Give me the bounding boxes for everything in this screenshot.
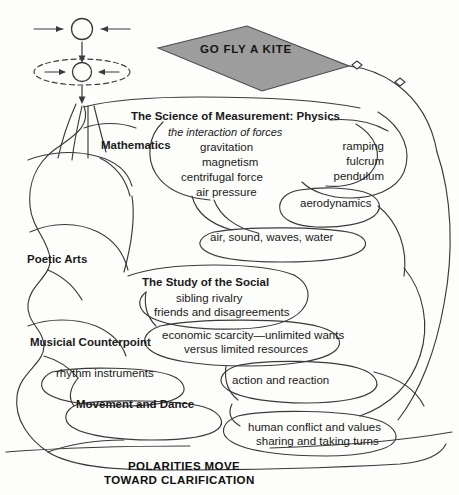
diagram-lines [0, 0, 459, 495]
music-label: Musicial Counterpoint [30, 336, 151, 350]
action-label: action and reaction [232, 374, 329, 388]
physics-descend-arc [192, 196, 232, 230]
rhythm-label: rhythm instruments [56, 367, 154, 381]
connector-lower-left [48, 440, 124, 452]
bottom-caption-line-one: POLARITIES MOVE [128, 459, 240, 473]
machines-item-fulcrum: fulcrum [308, 155, 384, 169]
kite-shape [158, 26, 349, 91]
bottom-caption-line-two: TOWARD CLARIFICATION [104, 473, 255, 487]
top-arrow-left [34, 26, 63, 32]
physics-item-gravitation: gravitation [200, 141, 253, 155]
right-sweep-one [404, 268, 425, 356]
mathematics-label: Mathematics [101, 139, 171, 153]
down-arrow-one [79, 42, 86, 63]
machines-item-pendulum: pendulum [300, 170, 384, 184]
economics-line-one: economic scarcity—unlimited wants [162, 329, 344, 343]
movement-label: Movement and Dance [76, 398, 194, 412]
diagram-canvas: GO FLY A KITE The Science of Measurement… [0, 0, 459, 495]
mathematics-lobe-upper [84, 124, 136, 129]
action-right-tail [374, 372, 424, 406]
poetic-arts-tail [48, 270, 82, 300]
physics-item-centrifugal-force: centrifugal force [181, 171, 263, 185]
down-arrow-two [79, 86, 86, 104]
bottom-divider-line [6, 446, 190, 452]
physics-subheading: the interaction of forces [168, 126, 282, 139]
media-label: air, sound, waves, water [210, 231, 333, 245]
conflict-line-one: human conflict and values [248, 421, 381, 435]
physics-item-air-pressure: air pressure [196, 186, 257, 200]
top-circle-icon [72, 19, 93, 40]
physics-item-magnetism: magnetism [202, 156, 258, 170]
kite-title: GO FLY A KITE [200, 43, 292, 55]
physics-lobe-top [84, 97, 360, 108]
social-item-sibling-rivalry: sibling rivalry [176, 292, 242, 306]
social-item-friends-disagreements: friends and disagreements [154, 306, 290, 320]
top-arrow-right [101, 26, 130, 32]
physics-heading: The Science of Measurement: Physics [131, 110, 340, 124]
connector-action-conflict [230, 404, 240, 426]
social-lobe-top [128, 265, 294, 276]
poetic-arts-label: Poetic Arts [27, 253, 87, 267]
conflict-line-two: sharing and taking turns [256, 435, 379, 449]
aero-right-tail [378, 206, 405, 276]
bottom-circle-icon [73, 63, 92, 82]
aerodynamics-label: aerodynamics [300, 197, 372, 211]
inner-arrow-right [98, 69, 119, 75]
inner-arrow-left [45, 69, 66, 75]
machines-item-ramping: ramping [308, 140, 384, 154]
right-sweep-three [398, 152, 450, 420]
economics-line-two: versus limited resources [184, 343, 308, 357]
social-heading: The Study of the Social [142, 276, 269, 290]
right-sweep-two [360, 356, 420, 416]
